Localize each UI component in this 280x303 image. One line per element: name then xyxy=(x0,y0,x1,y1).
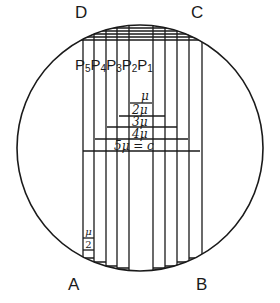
plate-labels: P5P4P3P2P1 xyxy=(75,57,153,74)
corner-label-d: D xyxy=(75,4,87,21)
corner-label-c: C xyxy=(191,4,203,21)
plate-label-1: P1 xyxy=(137,56,153,73)
fraction-numerator: μ xyxy=(83,227,94,237)
plate-label-3: P3 xyxy=(106,56,122,73)
plate-label-4: P4 xyxy=(91,56,107,73)
fraction-denominator: 2 xyxy=(83,240,94,250)
level-label-1: μ xyxy=(141,90,149,102)
plate-label-5: P5 xyxy=(75,56,91,73)
level-label-5: 5μ = c xyxy=(114,140,154,152)
corner-label-a: A xyxy=(68,276,79,293)
plate-label-2: P2 xyxy=(122,56,138,73)
corner-label-b: B xyxy=(196,276,207,293)
